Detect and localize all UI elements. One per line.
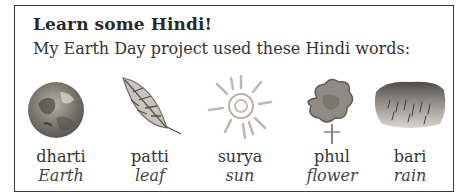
hindi-words-panel: Learn some Hindi! My Earth Day project u… [14,5,454,192]
word-item-sun: surya sun [195,74,285,186]
hindi-word: phul [287,148,377,166]
hindi-word: patti [105,148,195,166]
hindi-word: dharti [16,148,106,166]
word-item-leaf: patti leaf [105,74,195,186]
leaf-painting-icon [115,74,185,144]
panel-title: Learn some Hindi! [33,14,212,34]
panel-intro: My Earth Day project used these Hindi wo… [33,39,410,58]
english-translation: flower [287,166,377,186]
english-translation: leaf [105,166,195,186]
rain-painting-icon [370,74,450,144]
hindi-word: bari [365,148,455,166]
hindi-word: surya [195,148,285,166]
word-item-earth: dharti Earth [16,74,106,186]
english-translation: Earth [16,166,106,186]
flower-painting-icon [297,74,367,144]
word-item-rain: bari rain [365,74,455,186]
sun-painting-icon [205,74,275,144]
word-item-flower: phul flower [287,74,377,186]
english-translation: sun [195,166,285,186]
english-translation: rain [365,166,455,186]
earth-painting-icon [26,74,96,144]
